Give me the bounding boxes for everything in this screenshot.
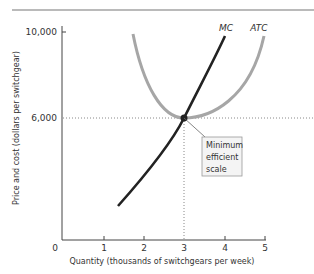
y-axis-title: Price and cost (dollars per switchgear)	[12, 51, 21, 205]
x-tick-label-4: 4	[222, 243, 228, 253]
x-tick-label-0: 0	[52, 243, 58, 253]
x-tick-label-3: 3	[181, 243, 187, 253]
annotation-line-2: efficient	[206, 153, 238, 162]
y-tick-label-10000: 10,000	[26, 27, 58, 37]
annotation-line-1: Minimum	[206, 141, 243, 150]
x-tick-label-5: 5	[262, 243, 268, 253]
x-axis-title: Quantity (thousands of switchgears per w…	[69, 257, 254, 266]
mc-label: MC	[219, 23, 234, 33]
atc-label: ATC	[249, 23, 268, 33]
annotation-leader	[184, 118, 205, 137]
atc-curve	[133, 34, 264, 118]
mc-curve	[118, 36, 225, 206]
x-tick-label-2: 2	[141, 243, 147, 253]
annotation-line-3: scale	[206, 165, 227, 174]
cost-curves-chart: 10,000 6,000 0 1 2 3 4 5 Quantity (thous…	[0, 0, 314, 274]
x-tick-label-1: 1	[101, 243, 107, 253]
y-tick-label-6000: 6,000	[31, 113, 57, 123]
